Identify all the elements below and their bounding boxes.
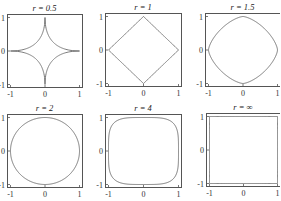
x-tick-label: -1 <box>105 190 112 199</box>
x-tick-label: 1 <box>276 89 280 98</box>
y-tick-label: -1 <box>0 81 5 90</box>
y-tick-label: 1 <box>199 13 203 22</box>
subplot-1: r = 0.5-10110-1 <box>0 3 83 99</box>
axes-frame <box>8 115 83 188</box>
axes-frame <box>106 115 182 188</box>
x-tick-label: 0 <box>241 89 245 98</box>
x-tick-label: 1 <box>276 189 280 198</box>
y-tick-label: -1 <box>197 180 204 189</box>
x-tick-label: -1 <box>105 89 112 98</box>
x-tick-label: 0 <box>242 189 246 198</box>
y-tick-label: 1 <box>1 114 5 123</box>
x-tick-label: -1 <box>206 189 213 198</box>
x-tick-label: 1 <box>177 190 181 199</box>
subplot-title: r = 1 <box>134 2 152 12</box>
unit-ball-curve <box>109 118 179 185</box>
y-tick-label: 0 <box>99 147 103 156</box>
x-tick-label: 0 <box>142 89 146 98</box>
y-tick-label: 1 <box>99 13 103 22</box>
subplot-title: r = 0.5 <box>33 3 57 13</box>
x-tick-label: 0 <box>142 190 146 199</box>
x-tick-label: 0 <box>43 190 47 199</box>
subplot-6: r = ∞-10110-1 <box>197 102 280 198</box>
unit-ball-curve <box>109 17 179 84</box>
y-tick-label: 1 <box>200 113 204 122</box>
unit-ball-curve <box>210 117 278 184</box>
y-tick-label: 1 <box>99 114 103 123</box>
x-tick-label: -1 <box>205 89 212 98</box>
unit-ball-curve <box>209 17 278 84</box>
y-tick-label: -1 <box>96 181 103 190</box>
plots-canvas: r = 0.5-10110-1r = 1-10110-1r = 1.5-1011… <box>0 0 280 201</box>
subplot-title: r = 2 <box>36 103 54 113</box>
subplot-title: r = ∞ <box>233 102 252 112</box>
y-tick-label: -1 <box>0 181 5 190</box>
y-tick-label: 0 <box>200 146 204 155</box>
x-tick-label: 0 <box>43 90 47 99</box>
y-tick-label: 0 <box>199 46 203 55</box>
y-tick-label: -1 <box>96 80 103 89</box>
axes-frame <box>8 15 83 88</box>
subplot-5: r = 4-10110-1 <box>96 103 181 199</box>
x-tick-label: 1 <box>78 190 82 199</box>
subplot-title: r = 4 <box>134 103 152 113</box>
y-tick-label: 1 <box>1 14 5 23</box>
subplot-3: r = 1.5-10110-1 <box>196 2 280 98</box>
subplot-2: r = 1-10110-1 <box>96 2 181 98</box>
axes-frame <box>206 14 281 87</box>
x-tick-label: 1 <box>78 90 82 99</box>
axes-frame <box>207 114 281 187</box>
y-tick-label: 0 <box>1 47 5 56</box>
x-tick-label: -1 <box>7 190 14 199</box>
axes-frame <box>106 14 182 87</box>
y-tick-label: -1 <box>196 80 203 89</box>
y-tick-label: 0 <box>1 147 5 156</box>
subplot-title: r = 1.5 <box>231 2 255 12</box>
x-tick-label: -1 <box>7 90 14 99</box>
subplot-4: r = 2-10110-1 <box>0 103 83 199</box>
unit-ball-curve <box>11 18 80 85</box>
unit-ball-figure: r = 0.5-10110-1r = 1-10110-1r = 1.5-1011… <box>0 0 280 201</box>
y-tick-label: 0 <box>99 46 103 55</box>
x-tick-label: 1 <box>177 89 181 98</box>
unit-ball-curve <box>11 118 80 185</box>
